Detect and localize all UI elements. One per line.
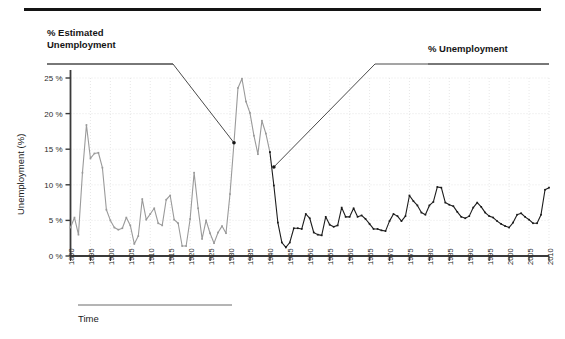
- series-marker: [440, 187, 442, 189]
- series-marker: [468, 215, 470, 217]
- series-marker: [500, 223, 502, 225]
- series-marker: [405, 215, 407, 217]
- series-marker: [221, 225, 223, 227]
- series-marker: [149, 213, 151, 215]
- series-marker: [86, 124, 88, 126]
- y-tick-label: 15 %: [44, 145, 62, 154]
- series-marker: [145, 219, 147, 221]
- series-marker: [285, 247, 287, 249]
- series-marker: [114, 227, 116, 229]
- series-marker: [193, 172, 195, 174]
- series-marker: [225, 232, 227, 234]
- series-marker: [301, 228, 303, 230]
- series-marker: [133, 243, 135, 245]
- axis-titles: Unemployment (%)Time: [15, 134, 232, 324]
- series-marker: [476, 202, 478, 204]
- series-marker: [520, 212, 522, 214]
- y-tick-label: 0 %: [49, 252, 63, 261]
- series-marker: [153, 207, 155, 209]
- series-marker: [337, 225, 339, 227]
- series-marker: [532, 222, 534, 224]
- y-tick-label: 5 %: [49, 216, 63, 225]
- axes: [66, 70, 550, 261]
- series-marker: [504, 225, 506, 227]
- series-marker: [528, 219, 530, 221]
- series-marker: [78, 234, 80, 236]
- x-tick-label: 1995: [486, 248, 495, 265]
- series-marker: [281, 242, 283, 244]
- series-marker: [141, 198, 143, 200]
- series-marker: [245, 101, 247, 103]
- series-marker: [496, 220, 498, 222]
- x-tick-label: 1970: [386, 248, 395, 265]
- series-marker: [516, 214, 518, 216]
- series-marker: [98, 152, 100, 154]
- x-tick-label: 2010: [546, 248, 555, 265]
- series-marker: [548, 187, 550, 189]
- x-tick-label: 1890: [67, 248, 76, 265]
- series-marker: [297, 227, 299, 229]
- x-tick-label: 1955: [326, 248, 335, 265]
- series-marker: [249, 112, 251, 114]
- series-marker: [488, 215, 490, 217]
- series-marker: [217, 232, 219, 234]
- series-marker: [409, 195, 411, 197]
- x-tick-label: 1900: [107, 248, 116, 265]
- series-marker: [484, 212, 486, 214]
- series-marker: [373, 228, 375, 230]
- series-marker: [317, 234, 319, 236]
- series-marker: [277, 222, 279, 224]
- series-marker: [161, 225, 163, 227]
- y-axis-title: Unemployment (%): [15, 134, 26, 215]
- estimated-unemployment-leader-endpoint: [232, 141, 236, 145]
- series-marker: [137, 235, 139, 237]
- series-marker: [102, 167, 104, 169]
- series-marker: [369, 223, 371, 225]
- series-line: [270, 152, 549, 247]
- x-tick-label: 1915: [167, 248, 176, 265]
- series-marker: [90, 158, 92, 160]
- series-marker: [452, 205, 454, 207]
- x-tick-label: 1920: [187, 248, 196, 265]
- series-marker: [74, 217, 76, 219]
- series-marker: [329, 224, 331, 226]
- x-tick-label: 1910: [147, 248, 156, 265]
- series-marker: [421, 212, 423, 214]
- series-marker: [437, 186, 439, 188]
- series-marker: [381, 230, 383, 232]
- series-marker: [464, 217, 466, 219]
- series-marker: [524, 216, 526, 218]
- series-marker: [444, 202, 446, 204]
- series-marker: [265, 133, 267, 135]
- series-marker: [544, 189, 546, 191]
- series-marker: [433, 201, 435, 203]
- series-marker: [456, 211, 458, 213]
- series-marker: [393, 213, 395, 215]
- series-marker: [377, 228, 379, 230]
- annotation-leader-lines: [47, 64, 549, 169]
- series-marker: [508, 227, 510, 229]
- unemployment-chart-figure: % Estimated Unemployment % Unemployment …: [0, 0, 565, 339]
- series-marker: [165, 199, 167, 201]
- series-marker: [169, 195, 171, 197]
- series-marker: [241, 78, 243, 80]
- series-marker: [341, 207, 343, 209]
- series-marker: [492, 217, 494, 219]
- series-marker: [185, 245, 187, 247]
- x-tick-label: 1965: [366, 248, 375, 265]
- x-tick-label: 1895: [87, 248, 96, 265]
- series-marker: [429, 205, 431, 207]
- series-marker: [106, 209, 108, 211]
- series-marker: [540, 214, 542, 216]
- series-marker: [401, 220, 403, 222]
- x-tick-label: 1975: [406, 248, 415, 265]
- gridlines: [71, 78, 550, 256]
- x-tick-label: 1930: [227, 248, 236, 265]
- y-tick-label: 20 %: [44, 110, 62, 119]
- series-marker: [205, 220, 207, 222]
- series-marker: [448, 204, 450, 206]
- series-marker: [70, 227, 72, 229]
- series-marker: [181, 245, 183, 247]
- series-marker: [333, 226, 335, 228]
- series-marker: [389, 220, 391, 222]
